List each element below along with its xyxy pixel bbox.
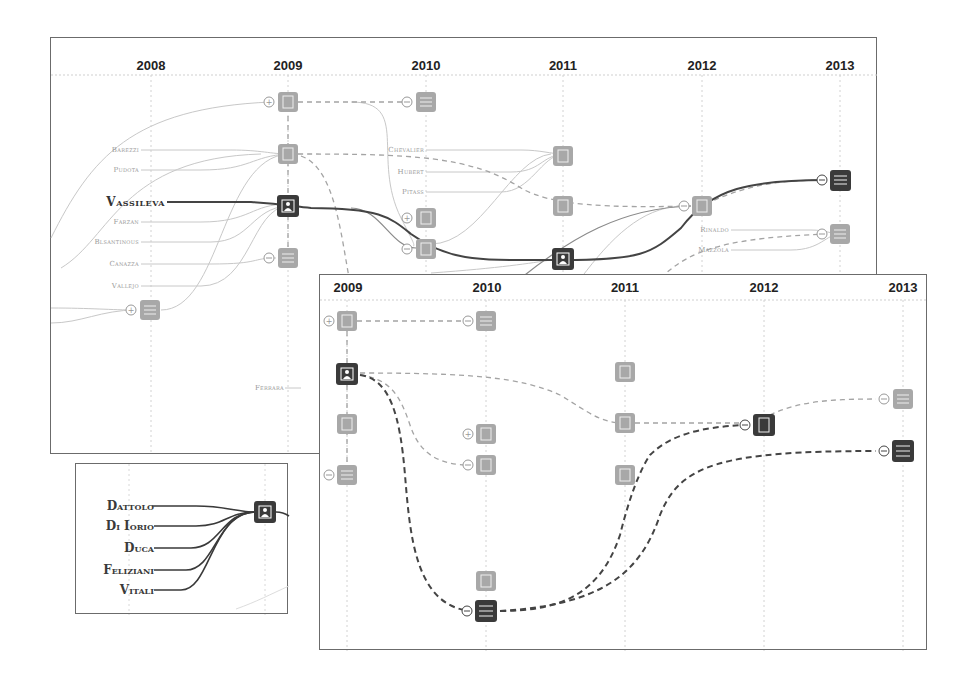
author-label-highlighted[interactable]: Vassileva [105,195,165,209]
node-light[interactable] [893,389,913,409]
year-label-2010: 2010 [473,280,502,295]
node-light[interactable] [476,571,496,591]
author-label: Chevalier [388,146,424,154]
author-label: Vallejo [111,282,139,290]
timeline-canvas-front: 2009 2010 2011 2012 2013 + [320,275,928,651]
node-light[interactable] [553,146,573,166]
author-label: Barezzi [112,146,139,154]
year-label-2013: 2013 [826,58,855,73]
merged-author-label: Di Iorio [106,519,154,533]
author-label: Hubert [398,168,425,176]
author-label: Pitass [402,188,424,196]
node-light[interactable] [615,465,635,485]
svg-text:+: + [404,214,411,223]
node-light[interactable] [416,92,436,112]
node-light[interactable] [337,465,357,485]
node-dark-author[interactable] [336,363,358,385]
node-dark-author[interactable] [254,501,276,523]
node-light[interactable] [476,424,496,444]
node-dark-author[interactable] [277,195,299,217]
merged-author-label: Duca [124,541,155,555]
merged-author-label: Feliziani [103,563,154,577]
year-label-2009: 2009 [334,280,363,295]
node-light[interactable] [337,414,357,434]
svg-text:+: + [128,306,135,315]
year-label-2011: 2011 [611,280,639,295]
node-dark-paper[interactable] [753,414,775,436]
author-label: Mazzola [698,246,729,254]
svg-text:+: + [266,98,273,107]
node-dark-paper[interactable] [475,600,497,622]
svg-text:+: + [465,430,472,439]
node-light[interactable] [553,196,573,216]
node-light[interactable] [337,311,357,331]
node-light[interactable] [140,300,160,320]
author-label: Pudota [113,166,139,174]
node-light[interactable] [278,144,298,164]
node-light[interactable] [830,224,850,244]
node-dark-author[interactable] [552,248,574,270]
node-light[interactable] [278,92,298,112]
merged-author-label: Vitali [119,583,154,597]
year-label-2012: 2012 [688,58,717,73]
node-light[interactable] [416,208,436,228]
year-label-2012: 2012 [750,280,779,295]
author-label: Blsantinous [94,238,139,246]
merged-author-label: Dattolo [107,499,154,513]
node-dark-paper[interactable] [830,170,851,191]
node-light[interactable] [615,413,635,433]
author-merge-inset: Dattolo Di Iorio Duca Feliziani Vitali [75,463,288,614]
year-label-2009: 2009 [274,58,303,73]
svg-text:+: + [326,317,333,326]
node-light[interactable] [615,362,635,382]
node-light[interactable] [278,248,298,268]
node-light[interactable] [416,239,436,259]
node-light[interactable] [476,455,496,475]
author-label: Ferrara [255,384,284,392]
timeline-panel-front: 2009 2010 2011 2012 2013 + [319,274,927,650]
year-label-2008: 2008 [137,58,166,73]
year-label-2013: 2013 [889,280,918,295]
year-label-2011: 2011 [549,58,577,73]
node-dark-paper[interactable] [892,440,914,462]
author-label: Canazza [109,260,139,268]
node-light[interactable] [692,196,712,216]
year-label-2010: 2010 [412,58,441,73]
node-light[interactable] [476,311,496,331]
author-label: Farzan [114,218,140,226]
inset-canvas: Dattolo Di Iorio Duca Feliziani Vitali [76,464,289,615]
author-label: Rinaldo [700,226,729,234]
